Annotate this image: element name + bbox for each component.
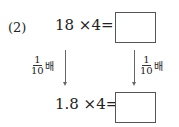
right-ratio-label: 1 10 배 — [140, 55, 163, 76]
right-ratio-denominator: 10 — [140, 66, 153, 76]
problem-number: (2) — [8, 20, 26, 35]
top-answer-box[interactable] — [115, 12, 156, 43]
right-down-arrow-icon — [134, 50, 135, 84]
left-ratio-unit: 배 — [45, 58, 54, 73]
left-down-arrow-icon — [65, 50, 66, 84]
left-ratio-label: 1 10 배 — [31, 55, 54, 76]
right-ratio-unit: 배 — [154, 58, 163, 73]
left-ratio-denominator: 10 — [31, 66, 44, 76]
bottom-equation: 1.8 ×4= — [55, 95, 118, 113]
top-equation: 18 ×4= — [55, 16, 114, 34]
bottom-answer-box[interactable] — [115, 92, 156, 123]
